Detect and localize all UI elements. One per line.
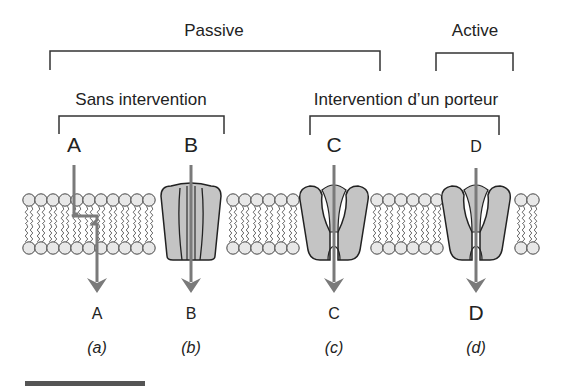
caption-c: (c): [325, 339, 344, 357]
carrier-label: Intervention d’un porteur: [314, 90, 498, 110]
passive-bracket: [50, 51, 380, 71]
active-label: Active: [452, 21, 498, 41]
solute-b-bottom: B: [186, 305, 197, 323]
no-carrier-label: Sans intervention: [75, 90, 206, 110]
solute-b-top: B: [184, 133, 198, 157]
active-bracket: [436, 53, 513, 71]
solute-a-top: A: [67, 133, 81, 157]
caption-a: (a): [87, 339, 107, 357]
no-carrier-bracket: [59, 116, 224, 134]
caption-b: (b): [181, 339, 201, 357]
solute-a-bottom: A: [92, 305, 103, 323]
solute-c-bottom: C: [328, 305, 340, 323]
solute-c-top: C: [326, 133, 341, 157]
solute-d-bottom: D: [468, 301, 483, 325]
caption-d: (d): [466, 339, 486, 357]
footer-bar: [25, 381, 145, 386]
passive-label: Passive: [184, 21, 244, 41]
arrow-a: [72, 165, 97, 282]
membrane-transport-diagram: [0, 0, 568, 386]
solute-d-top: D: [470, 138, 482, 156]
